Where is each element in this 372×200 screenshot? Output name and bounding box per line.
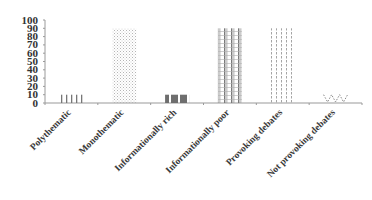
bar-polythematic: [59, 95, 83, 103]
x-axis: [45, 103, 362, 105]
bars: [59, 28, 347, 103]
x-category-label: Provoking debates: [224, 107, 284, 167]
bar-chart: 0102030405060708090100 PolythematicMonot…: [0, 0, 372, 200]
x-category-label: Monothematic: [77, 107, 126, 156]
bar-informationally-poor: [218, 28, 242, 103]
bar-provoking-debates: [271, 28, 295, 103]
x-axis-labels: PolythematicMonothematicInformationally …: [28, 107, 337, 179]
y-axis: 0102030405060708090100: [22, 14, 46, 109]
x-category-label: Polythematic: [28, 107, 73, 152]
bar-monothematic: [112, 28, 136, 103]
y-tick-label: 100: [22, 14, 39, 26]
bar-not-provoking-debates: [324, 95, 348, 102]
bar-informationally-rich: [165, 95, 189, 103]
